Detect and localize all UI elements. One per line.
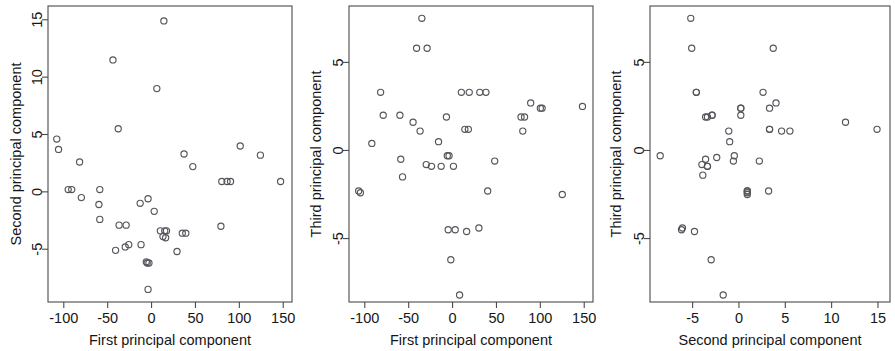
data-point bbox=[123, 222, 129, 228]
x-axis-title: Second principal component bbox=[679, 332, 862, 348]
data-point bbox=[443, 114, 449, 120]
data-point bbox=[727, 139, 733, 145]
data-point bbox=[450, 163, 456, 169]
data-point bbox=[756, 158, 762, 164]
data-point bbox=[528, 100, 534, 106]
data-point bbox=[452, 227, 458, 233]
data-point bbox=[693, 89, 699, 95]
data-point bbox=[483, 89, 489, 95]
y-tick-label: 5 bbox=[330, 58, 346, 66]
data-point bbox=[277, 178, 283, 184]
data-point bbox=[766, 126, 772, 132]
data-point bbox=[138, 242, 144, 248]
data-point bbox=[691, 228, 697, 234]
data-point bbox=[579, 103, 585, 109]
data-point bbox=[766, 188, 772, 194]
x-tick-label: 150 bbox=[271, 310, 295, 326]
data-point bbox=[448, 257, 454, 263]
data-point bbox=[110, 57, 116, 63]
y-tick-label: -5 bbox=[631, 232, 647, 245]
data-point bbox=[151, 208, 157, 214]
plot-frame bbox=[349, 6, 593, 302]
data-point bbox=[466, 89, 472, 95]
data-point bbox=[766, 105, 772, 111]
data-point bbox=[476, 225, 482, 231]
data-point bbox=[458, 89, 464, 95]
data-point bbox=[112, 247, 118, 253]
x-tick-label: 100 bbox=[227, 310, 251, 326]
data-point bbox=[97, 216, 103, 222]
y-axis-title: Third principal component bbox=[308, 71, 324, 238]
data-point bbox=[190, 164, 196, 170]
scatter-panel-first-vs-second: -100-50050100150-5051015First principal … bbox=[0, 0, 300, 351]
data-point bbox=[874, 126, 880, 132]
plot-frame bbox=[650, 6, 890, 302]
data-point bbox=[738, 112, 744, 118]
y-tick-label: 15 bbox=[29, 12, 45, 28]
data-point bbox=[435, 139, 441, 145]
data-point bbox=[787, 128, 793, 134]
x-tick-label: -5 bbox=[686, 310, 699, 326]
y-axis-title: Second principal component bbox=[8, 63, 24, 246]
data-point bbox=[96, 201, 102, 207]
data-point bbox=[708, 257, 714, 263]
data-point bbox=[55, 146, 61, 152]
data-point bbox=[700, 172, 706, 178]
data-point bbox=[257, 152, 263, 158]
data-point bbox=[720, 292, 726, 298]
plot-frame bbox=[48, 6, 292, 302]
data-point bbox=[145, 286, 151, 292]
data-point bbox=[378, 89, 384, 95]
data-point bbox=[413, 45, 419, 51]
y-tick-label: -5 bbox=[330, 232, 346, 245]
y-tick-label: 5 bbox=[29, 130, 45, 138]
data-point bbox=[726, 128, 732, 134]
scatter-panel-first-vs-third: -100-50050100150-505First principal comp… bbox=[300, 0, 600, 351]
data-point bbox=[218, 223, 224, 229]
data-point bbox=[438, 163, 444, 169]
x-tick-label: 0 bbox=[735, 310, 743, 326]
pca-scatterplot-figure: -100-50050100150-5051015First principal … bbox=[0, 0, 895, 351]
data-point bbox=[477, 89, 483, 95]
data-point bbox=[97, 186, 103, 192]
plot-area: -5051015-505Second principal componentTh… bbox=[600, 0, 895, 351]
data-point bbox=[778, 128, 784, 134]
data-point bbox=[54, 136, 60, 142]
data-point bbox=[115, 126, 121, 132]
data-point bbox=[380, 112, 386, 118]
x-tick-label: -50 bbox=[97, 310, 118, 326]
y-tick-label: 0 bbox=[631, 146, 647, 154]
data-point bbox=[842, 119, 848, 125]
data-point-layer bbox=[54, 18, 284, 293]
y-tick-label: 5 bbox=[631, 58, 647, 66]
x-tick-label: 50 bbox=[488, 310, 504, 326]
data-point bbox=[770, 45, 776, 51]
data-point bbox=[714, 154, 720, 160]
plot-area: -100-50050100150-505First principal comp… bbox=[300, 0, 600, 351]
x-tick-label: 150 bbox=[572, 310, 596, 326]
data-point bbox=[688, 15, 694, 21]
data-point bbox=[357, 190, 363, 196]
data-point bbox=[181, 151, 187, 157]
data-point bbox=[78, 195, 84, 201]
x-tick-label: -100 bbox=[49, 310, 78, 326]
x-tick-label: -100 bbox=[350, 310, 379, 326]
x-tick-label: -50 bbox=[398, 310, 419, 326]
y-tick-label: 0 bbox=[330, 146, 346, 154]
data-point bbox=[410, 119, 416, 125]
data-point bbox=[520, 128, 526, 134]
x-axis-title: First principal component bbox=[89, 332, 251, 348]
data-point bbox=[237, 143, 243, 149]
data-point bbox=[689, 45, 695, 51]
data-point bbox=[77, 159, 83, 165]
data-point bbox=[419, 15, 425, 21]
y-axis-title: Third principal component bbox=[608, 71, 624, 238]
plot-area: -100-50050100150-5051015First principal … bbox=[0, 0, 300, 351]
x-tick-label: 5 bbox=[781, 310, 789, 326]
y-tick-label: 10 bbox=[29, 69, 45, 85]
data-point bbox=[456, 292, 462, 298]
data-point bbox=[704, 163, 710, 169]
data-point bbox=[657, 153, 663, 159]
data-point bbox=[154, 86, 160, 92]
data-point bbox=[398, 156, 404, 162]
